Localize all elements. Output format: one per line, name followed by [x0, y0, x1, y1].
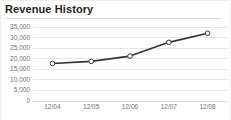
revenue-line-series	[0, 19, 231, 120]
revenue-history-chart-widget: Revenue History 35,00030,00025,00020,000…	[0, 0, 231, 120]
chart-plot-area: 35,00030,00025,00020,00015,00010,0005,00…	[0, 19, 231, 120]
series-line	[52, 33, 207, 63]
data-point-marker[interactable]	[167, 40, 172, 45]
data-point-marker[interactable]	[205, 31, 210, 36]
page-title: Revenue History	[5, 3, 93, 15]
data-point-marker[interactable]	[50, 61, 55, 66]
chart-title-bar: Revenue History	[0, 0, 231, 19]
data-point-marker[interactable]	[89, 59, 94, 64]
data-point-marker[interactable]	[128, 54, 133, 59]
